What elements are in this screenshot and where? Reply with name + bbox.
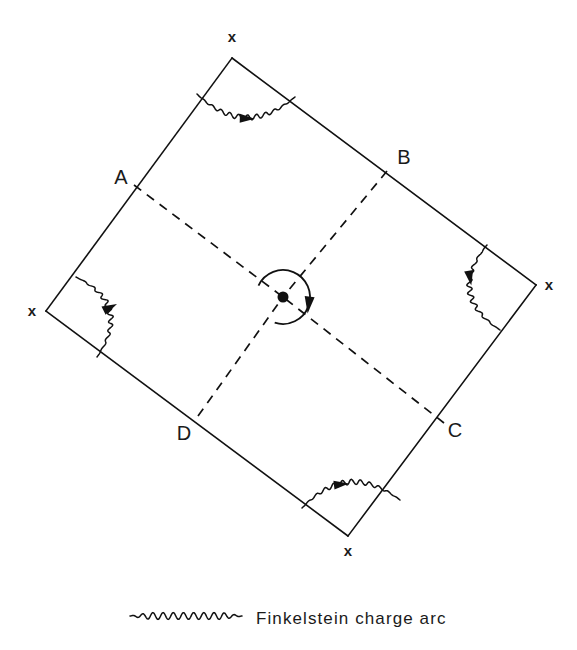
legend: Finkelstein charge arc: [130, 609, 447, 628]
edge-top-left: [46, 58, 232, 311]
charge-arc-left: [76, 277, 113, 357]
vertex-label-top: x: [228, 28, 237, 45]
square-outline: [46, 58, 536, 536]
center-dot: [278, 292, 289, 303]
dashed-line-d-center: [198, 300, 281, 416]
corner-label-a: A: [114, 166, 128, 188]
vertex-label-bottom: x: [344, 542, 353, 559]
vertex-label-right: x: [545, 276, 554, 293]
charge-arc-left-arrowhead: [102, 304, 118, 315]
dashed-line-c-center: [286, 300, 444, 424]
finkelstein-charge-arc-diagram: x x x x A B C D Finkelstein charge arc: [0, 0, 577, 650]
legend-wavy-line-icon: [130, 613, 242, 620]
corner-label-b: B: [397, 146, 410, 168]
corner-label-d: D: [177, 422, 191, 444]
edge-bottom-right: [348, 285, 536, 536]
dashed-radials: [134, 171, 444, 423]
vertex-labels: x x x x: [28, 28, 554, 559]
vertex-label-left: x: [28, 302, 37, 319]
edge-bottom-left: [46, 311, 348, 536]
corner-label-c: C: [448, 419, 462, 441]
figure-root: x x x x A B C D Finkelstein charge arc: [0, 0, 577, 650]
edge-top-right: [232, 58, 536, 285]
dashed-line-a-center: [134, 185, 280, 295]
charge-arc-bottom: [302, 479, 400, 508]
legend-label: Finkelstein charge arc: [256, 609, 447, 628]
center-spin-marker: [259, 270, 315, 324]
charge-arc-right: [467, 245, 500, 330]
